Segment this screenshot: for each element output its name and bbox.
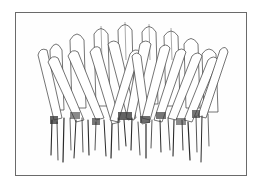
leaf-fringe-drawing: [0, 0, 261, 189]
